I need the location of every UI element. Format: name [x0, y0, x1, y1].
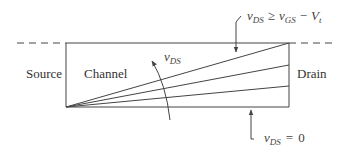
channel-boundary-line-3 — [66, 86, 289, 107]
zero-bias-leader-arrow-icon — [251, 110, 254, 139]
zero-bias-condition-label: vDS=0 — [264, 130, 305, 147]
vds-sweep-label: vDS — [164, 49, 181, 66]
saturation-condition-label: vDS≥vGS−Vt — [247, 8, 322, 25]
channel-label: Channel — [84, 66, 128, 81]
drain-label: Drain — [297, 66, 327, 81]
channel-diagram: Source Channel Drain vDS vDS≥vGS−Vt vDS=… — [0, 0, 347, 153]
saturation-leader-arrow-icon — [236, 16, 241, 52]
source-label: Source — [26, 66, 62, 81]
